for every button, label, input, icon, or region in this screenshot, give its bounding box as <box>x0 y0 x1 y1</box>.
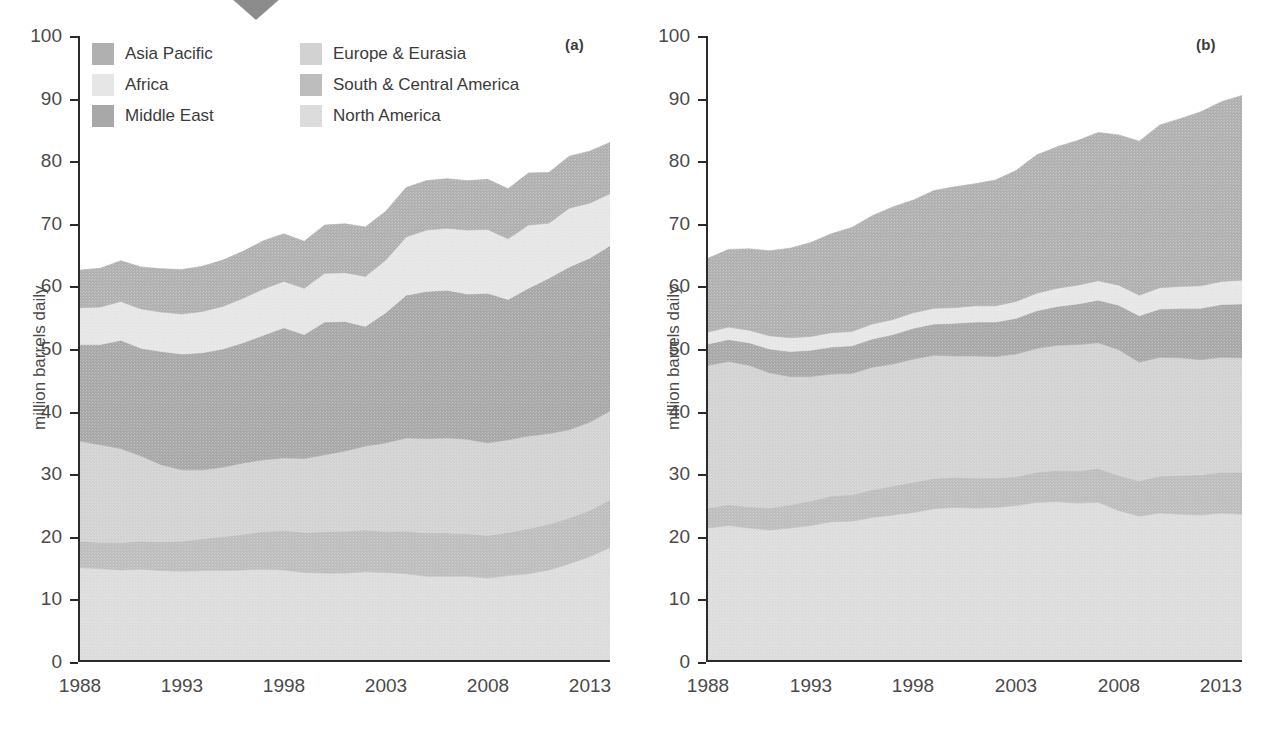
y-tick-label: 30 <box>644 464 690 483</box>
legend-label-middle-east: Middle East <box>125 105 214 127</box>
x-tick-label: 2008 <box>453 676 523 695</box>
legend-label-south-central-america: South & Central America <box>333 74 519 96</box>
panel-a-x-axis <box>78 660 610 662</box>
y-tick <box>698 537 706 539</box>
x-tick-label: 2008 <box>1084 676 1154 695</box>
y-tick-label: 100 <box>644 26 690 45</box>
x-tick-label: 1993 <box>147 676 217 695</box>
figure-root: (a) million barrels daily 01020304050607… <box>0 0 1276 729</box>
x-tick-label: 1998 <box>878 676 948 695</box>
y-tick <box>70 161 78 163</box>
y-tick <box>698 412 706 414</box>
legend-swatch-europe-eurasia <box>300 43 322 65</box>
legend-label-asia-pacific: Asia Pacific <box>125 43 213 65</box>
y-tick <box>70 599 78 601</box>
y-tick-label: 90 <box>644 89 690 108</box>
legend-swatch-south-central-america <box>300 74 322 96</box>
y-tick <box>698 36 706 38</box>
y-tick-label: 20 <box>16 527 62 546</box>
y-tick <box>698 599 706 601</box>
y-tick-label: 80 <box>644 151 690 170</box>
y-tick-label: 100 <box>16 26 62 45</box>
y-tick-label: 80 <box>16 151 62 170</box>
y-tick-label: 30 <box>16 464 62 483</box>
y-tick-label: 10 <box>16 589 62 608</box>
y-tick-label: 70 <box>16 214 62 233</box>
y-tick-label: 40 <box>644 402 690 421</box>
panel-b-stacked-area <box>708 36 1242 662</box>
x-tick-label: 2013 <box>1186 676 1256 695</box>
x-tick-label: 1988 <box>673 676 743 695</box>
panel-a: (a) million barrels daily 01020304050607… <box>0 0 636 729</box>
y-tick <box>698 349 706 351</box>
y-tick <box>698 286 706 288</box>
panel-b-x-axis <box>706 660 1242 662</box>
panel-b: (b) million barrels daily 01020304050607… <box>636 0 1276 729</box>
x-tick-label: 1988 <box>45 676 115 695</box>
y-tick <box>70 224 78 226</box>
x-tick-label: 1993 <box>776 676 846 695</box>
legend-label-europe-eurasia: Europe & Eurasia <box>333 43 466 65</box>
y-tick-label: 70 <box>644 214 690 233</box>
y-tick-label: 60 <box>16 276 62 295</box>
y-tick-label: 20 <box>644 527 690 546</box>
y-tick-label: 40 <box>16 402 62 421</box>
y-tick <box>70 349 78 351</box>
legend-swatch-north-america <box>300 105 322 127</box>
legend-swatch-africa <box>92 74 114 96</box>
y-tick <box>698 161 706 163</box>
panel-b-y-axis <box>706 36 708 662</box>
y-tick <box>70 286 78 288</box>
x-tick-label: 1998 <box>249 676 319 695</box>
y-tick <box>70 474 78 476</box>
y-tick <box>698 99 706 101</box>
y-tick-label: 60 <box>644 276 690 295</box>
y-tick-label: 0 <box>16 652 62 671</box>
legend-label-north-america: North America <box>333 105 441 127</box>
legend-swatch-asia-pacific <box>92 43 114 65</box>
y-tick <box>70 99 78 101</box>
legend-swatch-middle-east <box>92 105 114 127</box>
y-tick <box>698 662 706 664</box>
x-tick-label: 2013 <box>555 676 625 695</box>
y-tick <box>698 224 706 226</box>
y-tick <box>70 412 78 414</box>
x-tick-label: 2003 <box>981 676 1051 695</box>
y-tick <box>70 537 78 539</box>
y-tick <box>698 474 706 476</box>
y-tick <box>70 36 78 38</box>
y-tick-label: 50 <box>16 339 62 358</box>
y-tick <box>70 662 78 664</box>
y-tick-label: 90 <box>16 89 62 108</box>
panel-a-stacked-area <box>80 36 610 662</box>
y-tick-label: 0 <box>644 652 690 671</box>
x-tick-label: 2003 <box>351 676 421 695</box>
y-tick-label: 50 <box>644 339 690 358</box>
legend-label-africa: Africa <box>125 74 168 96</box>
panel-a-y-axis <box>78 36 80 662</box>
y-tick-label: 10 <box>644 589 690 608</box>
